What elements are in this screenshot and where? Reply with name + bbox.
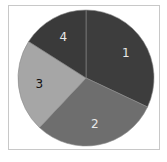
slice-label-3: 3 [36, 77, 44, 91]
slice-label-2: 2 [91, 117, 99, 131]
slice-label-1: 1 [122, 46, 130, 60]
pie-chart: 1234 [0, 0, 167, 162]
slice-label-4: 4 [60, 30, 68, 44]
